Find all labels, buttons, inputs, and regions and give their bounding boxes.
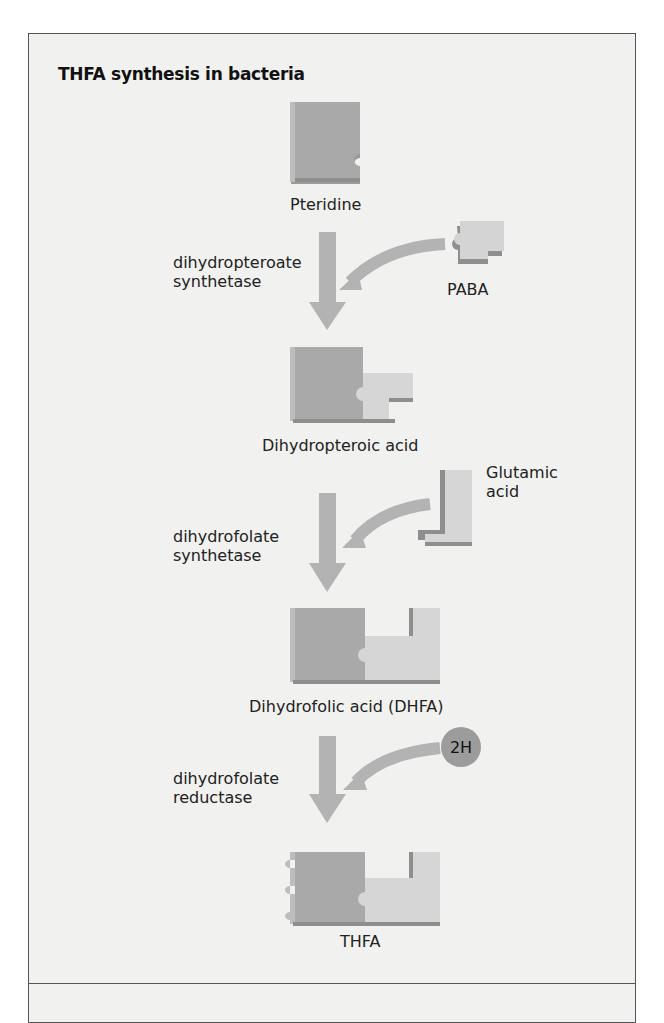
thfa-label: THFA (340, 932, 380, 951)
hydrogen-label: 2H (449, 738, 473, 757)
pteridine-piece-icon (290, 102, 360, 184)
step1-down-arrow-icon (309, 232, 346, 330)
dihydropteroic-acid-label: Dihydropteroic acid (262, 436, 418, 455)
enzyme-2-line2: synthetase (173, 546, 279, 565)
enzyme-2-line1: dihydrofolate (173, 527, 279, 546)
hydrogen-curved-arrow-icon (356, 748, 440, 782)
glutamic-acid-line1: Glutamic (486, 463, 558, 482)
dhfa-piece-icon (290, 608, 440, 684)
enzyme-3-line1: dihydrofolate (173, 769, 279, 788)
enzyme-3-label: dihydrofolate reductase (173, 769, 279, 807)
enzyme-3-line2: reductase (173, 788, 279, 807)
step2-down-arrow-icon (309, 493, 346, 592)
dihydropteroic-acid-piece-icon (290, 347, 413, 423)
pteridine-label: Pteridine (290, 195, 361, 214)
thfa-piece-icon (285, 852, 440, 926)
glutamic-acid-line2: acid (486, 482, 558, 501)
dhfa-label: Dihydrofolic acid (DHFA) (249, 697, 444, 716)
step3-down-arrow-icon (309, 736, 346, 823)
glutamic-acid-label: Glutamic acid (486, 463, 558, 501)
enzyme-1-line2: synthetase (173, 272, 302, 291)
paba-curved-arrow-icon (350, 244, 445, 282)
paba-label: PABA (447, 280, 489, 299)
enzyme-1-label: dihydropteroate synthetase (173, 253, 302, 291)
paba-piece-icon (452, 221, 504, 264)
enzyme-1-line1: dihydropteroate (173, 253, 302, 272)
enzyme-2-label: dihydrofolate synthetase (173, 527, 279, 565)
